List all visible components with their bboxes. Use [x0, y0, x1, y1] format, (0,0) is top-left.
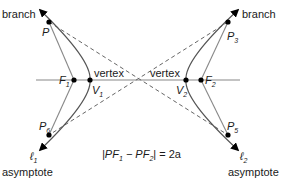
- branch-label-left: branch: [2, 8, 36, 20]
- label-P5: P5: [227, 120, 238, 134]
- label-F2: F2: [205, 74, 216, 88]
- point-P: [46, 19, 51, 24]
- label-l2: ℓ2: [239, 150, 248, 164]
- point-V1: [87, 77, 92, 82]
- vertex-label-right: vertex: [150, 67, 180, 79]
- label-V2: V2: [176, 84, 187, 98]
- label-P6: P6: [39, 120, 50, 134]
- vertex-label-left: vertex: [94, 67, 124, 79]
- branch-label-right: branch: [242, 8, 276, 20]
- label-l1: ℓ1: [29, 150, 38, 164]
- point-V2: [183, 77, 188, 82]
- point-P5: [225, 132, 230, 137]
- label-P3: P3: [227, 30, 238, 44]
- label-P: P: [42, 26, 50, 38]
- hyperbola-diagram: branch branch vertex vertex asymptote as…: [0, 0, 282, 179]
- label-F1: F1: [59, 74, 70, 88]
- focal-distance-equation: |PF1 − PF2| = 2a: [102, 148, 182, 162]
- label-V1: V1: [92, 84, 103, 98]
- asymptote-label-left: asymptote: [2, 166, 53, 178]
- point-F1: [71, 77, 76, 82]
- segment-P-F1: [49, 22, 74, 80]
- point-P3: [225, 19, 230, 24]
- point-F2: [198, 77, 203, 82]
- asymptote-label-right: asymptote: [228, 166, 279, 178]
